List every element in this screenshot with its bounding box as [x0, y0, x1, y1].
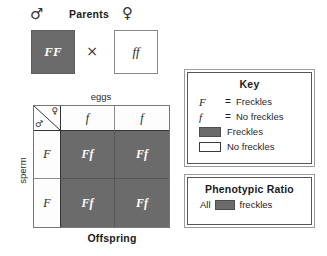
dark-swatch-icon [215, 200, 235, 210]
ratio-panel-inner: Phenotypic Ratio All freckles [187, 177, 312, 225]
offspring-cell-r2c1: Ff [61, 179, 115, 227]
light-swatch-icon [199, 142, 221, 152]
key-gene-symbol: f [196, 111, 225, 123]
female-parent-genotype-box: ff [114, 30, 158, 74]
grid-corner-cell: ♀ ♂ [34, 106, 61, 131]
punnett-square-diagram: ♂ Parents ♀ FF × ff eggs sperm Offspring… [0, 0, 327, 256]
key-gene-symbol: F [196, 96, 225, 108]
key-row-text: Freckles [227, 126, 263, 137]
column-header-allele-2: f [115, 106, 169, 131]
key-title: Key [196, 78, 303, 90]
eggs-axis-label: eggs [61, 91, 141, 102]
row-header-allele-2: F [34, 179, 61, 227]
row-header-allele-1: F [34, 131, 61, 179]
offspring-label: Offspring [52, 232, 172, 244]
key-panel: Key F = Freckles f = No freckles Freckle… [184, 69, 315, 167]
offspring-cell-r2c2: Ff [115, 179, 169, 227]
male-symbol-icon: ♂ [30, 7, 43, 22]
male-parent-genotype-box: FF [31, 30, 75, 74]
punnett-grid: ♀ ♂ f f F Ff Ff F Ff Ff [33, 105, 170, 228]
key-row: Freckles [196, 124, 303, 139]
key-panel-inner: Key F = Freckles f = No freckles Freckle… [187, 72, 312, 164]
sperm-axis-label: sperm [17, 143, 28, 199]
ratio-suffix-text: freckles [240, 199, 273, 210]
parents-heading: Parents [59, 8, 119, 20]
phenotypic-ratio-value: All freckles [196, 199, 303, 210]
key-row-text: No freckles [236, 111, 284, 122]
key-row-text: Freckles [236, 96, 272, 107]
ratio-prefix-text: All [200, 199, 211, 210]
phenotypic-ratio-title: Phenotypic Ratio [196, 183, 303, 195]
offspring-cell-r1c1: Ff [61, 131, 115, 179]
offspring-cell-r1c2: Ff [115, 131, 169, 179]
female-symbol-icon: ♀ [122, 6, 133, 21]
key-row: f = No freckles [196, 109, 303, 124]
cross-multiply-icon: × [82, 43, 102, 59]
key-row: F = Freckles [196, 94, 303, 109]
key-equals-sign: = [225, 96, 236, 107]
dark-swatch-icon [199, 127, 221, 137]
key-row-text: No freckles [227, 141, 275, 152]
key-row: No freckles [196, 139, 303, 154]
corner-female-symbol-icon: ♀ [51, 107, 58, 116]
phenotypic-ratio-panel: Phenotypic Ratio All freckles [184, 174, 315, 228]
column-header-allele-1: f [61, 106, 115, 131]
key-equals-sign: = [225, 111, 236, 122]
corner-male-symbol-icon: ♂ [35, 120, 43, 129]
